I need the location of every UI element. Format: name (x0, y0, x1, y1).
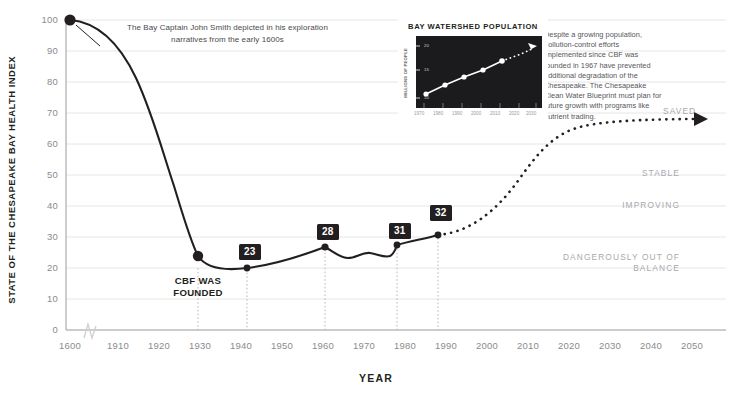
x-tick-2020: 2020 (547, 340, 591, 351)
x-tick-1990: 1990 (424, 340, 468, 351)
cbf-founded-label: CBF WAS FOUNDED (153, 275, 243, 298)
inset-series-projected (502, 43, 537, 61)
inset-canvas (416, 36, 542, 108)
x-tick-1950: 1950 (260, 340, 304, 351)
y-tick-70: 70 (32, 107, 58, 118)
side-note-text: Despite a growing population, pollution-… (544, 30, 662, 122)
bay-health-index-chart: STATE OF THE CHESAPEAKE BAY HEALTH INDEX (0, 0, 752, 404)
value-badge-2016: 32 (430, 205, 452, 221)
inset-x-tick-2000: 2000 (471, 111, 481, 116)
x-tick-1940: 1940 (219, 340, 263, 351)
x-axis-title: YEAR (0, 372, 752, 384)
inset-y-axis-title: MILLIONS OF PEOPLE (401, 42, 410, 104)
y-tick-60: 60 (32, 138, 58, 149)
inset-x-tick-1980: 1980 (433, 111, 443, 116)
inset-x-tick-1970: 1970 (414, 111, 424, 116)
y-tick-100: 100 (32, 14, 58, 25)
x-tick-1970: 1970 (342, 340, 386, 351)
value-badge-2010: 31 (389, 223, 411, 239)
zone-label-dangerously-out-of-balance: DANGEROUSLY OUT OF BALANCE (540, 252, 680, 274)
inset-title: BAY WATERSHED POPULATION (398, 22, 548, 31)
x-axis-break-icon (84, 324, 96, 338)
x-tick-1960: 1960 (301, 340, 345, 351)
marker-1967 (193, 251, 203, 261)
inset-x-tick-2030: 2030 (526, 111, 536, 116)
zone-label-improving: IMPROVING (560, 200, 680, 211)
y-tick-30: 30 (32, 231, 58, 242)
x-tick-1980: 1980 (383, 340, 427, 351)
x-tick-2040: 2040 (629, 340, 673, 351)
y-tick-10: 10 (32, 293, 58, 304)
inset-bay-watershed-population: BAY WATERSHED POPULATION MILLIONS OF PEO… (398, 12, 548, 124)
marker-2010 (394, 242, 401, 249)
value-badge-2000: 28 (317, 224, 339, 240)
series-historical (70, 20, 438, 269)
zone-label-saved: SAVED (663, 106, 696, 116)
x-tick-1930: 1930 (178, 340, 222, 351)
y-tick-0: 0 (32, 324, 58, 335)
marker-1600 (64, 14, 75, 25)
x-tick-1910: 1910 (96, 340, 140, 351)
marker-2016 (435, 232, 442, 239)
x-tick-1600: 1600 (48, 340, 92, 351)
x-tick-2000: 2000 (465, 340, 509, 351)
captain-smith-annotation: The Bay Captain John Smith depicted in h… (110, 22, 345, 45)
marker-1983 (244, 265, 251, 272)
y-tick-50: 50 (32, 169, 58, 180)
zone-label-stable: STABLE (560, 168, 680, 179)
inset-y-axis-title-text: MILLIONS OF PEOPLE (403, 48, 408, 98)
inset-x-tick-2020: 2020 (509, 111, 519, 116)
inset-y-tick-15: 15 (424, 67, 429, 72)
y-tick-90: 90 (32, 45, 58, 56)
x-tick-2050: 2050 (670, 340, 714, 351)
y-tick-80: 80 (32, 76, 58, 87)
x-tick-2030: 2030 (588, 340, 632, 351)
inset-y-tick-20: 20 (424, 43, 429, 48)
value-badge-1983: 23 (239, 244, 261, 260)
marker-2000 (321, 243, 328, 250)
inset-plot-area (416, 36, 542, 108)
inset-x-tick-1990: 1990 (452, 111, 462, 116)
inset-series-observed (423, 58, 504, 96)
x-tick-2010: 2010 (506, 340, 550, 351)
y-tick-20: 20 (32, 262, 58, 273)
x-tick-1920: 1920 (137, 340, 181, 351)
inset-x-tick-2010: 2010 (490, 111, 500, 116)
y-tick-40: 40 (32, 200, 58, 211)
inset-y-tick-10: 10 (424, 95, 429, 100)
